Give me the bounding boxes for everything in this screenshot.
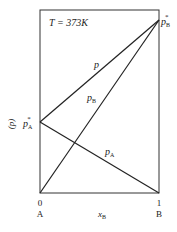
component-b-label: B: [156, 209, 162, 219]
pa-line-label: pA: [104, 146, 115, 158]
component-a-label: A: [37, 209, 44, 219]
x-tick-0: 0: [38, 198, 43, 208]
plot-frame: [40, 10, 159, 193]
x-tick-1: 1: [157, 198, 162, 208]
total-pressure-label: p: [93, 59, 99, 70]
raoult-law-diagram: T = 373K pB* pA* p pB pA (p) 0 1 A B xB: [0, 0, 177, 232]
y-axis-label: (p): [6, 119, 16, 130]
line-partial-pressure-a: [40, 122, 159, 193]
temperature-label: T = 373K: [49, 17, 89, 28]
pa-star-label: pA*: [22, 115, 33, 130]
pb-star-label: pB*: [160, 13, 170, 28]
pb-line-label: pB: [86, 92, 96, 104]
x-axis-label: xB: [97, 209, 106, 220]
